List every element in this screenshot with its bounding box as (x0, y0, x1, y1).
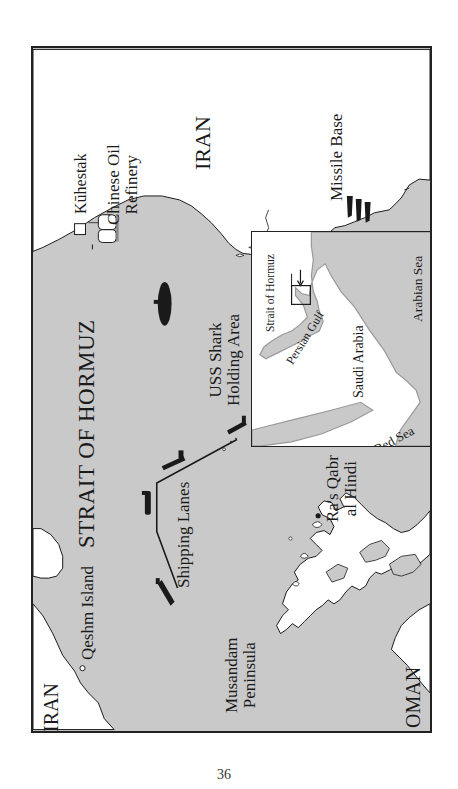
inset-geography (252, 232, 432, 446)
shipping-lanes-label: Shipping Lanes (175, 482, 193, 588)
kuhestak-label: Kūhestak (73, 154, 90, 214)
uss-shark-label-line1: USS Shark (207, 322, 225, 397)
qeshm-island-label: Qeshm Island (79, 566, 97, 660)
iran-label: IRAN (191, 116, 214, 170)
oman-label: OMAN (403, 667, 424, 728)
musandam-peninsula-label: Musandam Peninsula (223, 637, 259, 713)
tanker-ship-icon (156, 578, 175, 606)
inset-locator-map: Strait of Hormuz Persian Gulf Saudi Arab… (251, 231, 432, 447)
ras-qabr-al-hindi-label: Ra's Qabr al Hindi (324, 455, 360, 522)
tanker-ship-icon (227, 416, 247, 435)
tanker-ship-icon (162, 450, 186, 470)
iran-landmass (33, 49, 430, 254)
uss-shark-label-line2: Holding Area (225, 314, 243, 406)
page-number: 36 (217, 767, 231, 783)
location-dot-icon (316, 513, 321, 518)
qeshm-landmass (33, 529, 63, 579)
submarine-icon (154, 282, 172, 326)
shipping-lane-line (157, 439, 237, 588)
location-dot-icon (80, 666, 85, 671)
musandam-label-line1: Musandam (223, 637, 241, 713)
refinery-label-line2: Refinery (123, 155, 141, 214)
missile-base-label: Missile Base (328, 114, 346, 201)
ras-qabr-label-line2: al Hindi (342, 461, 360, 516)
chinese-oil-refinery-label: Chinese Oil Refinery (105, 144, 141, 225)
iran-west-label: IRAN (41, 683, 62, 732)
map-title: STRAIT OF HORMUZ (75, 319, 99, 548)
strait-of-hormuz-map: IRAN Missile Base Kūhestak Chinese Oil R… (31, 46, 432, 733)
refinery-label-line1: Chinese Oil (105, 144, 123, 225)
arrow-icon (297, 270, 303, 286)
ras-qabr-label-line1: Ra's Qabr (324, 455, 342, 522)
inset-arabian-sea-label: Arabian Sea (411, 256, 425, 322)
uss-shark-holding-area-label: USS Shark Holding Area (207, 314, 243, 406)
musandam-label-line2: Peninsula (241, 642, 259, 708)
inset-strait-of-hormuz-label: Strait of Hormuz (264, 254, 276, 332)
inset-saudi-arabia-label: Saudi Arabia (352, 325, 367, 398)
tanker-ship-icon (142, 491, 151, 515)
town-square-icon (75, 224, 86, 235)
